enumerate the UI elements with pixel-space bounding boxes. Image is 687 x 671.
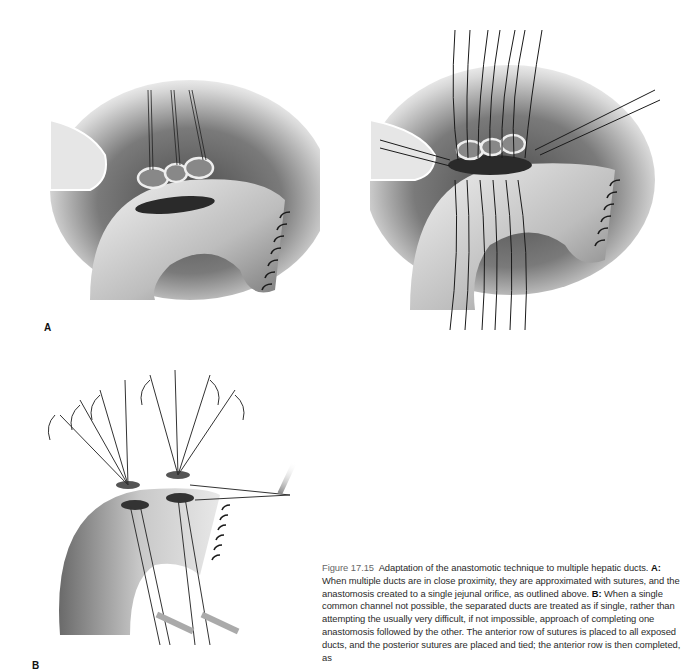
panel-label-b: B — [32, 660, 39, 671]
figure-panel-a-sutures — [370, 20, 660, 330]
figure-number: Figure 17.15 — [322, 562, 374, 573]
figure-panel-a — [50, 40, 320, 300]
caption-a-label: A: — [651, 562, 661, 573]
surgical-illustration-a-sutures — [370, 20, 660, 330]
surgical-illustration-a — [50, 40, 320, 300]
surgical-illustration-b — [30, 345, 320, 668]
figure-panel-b — [30, 345, 320, 668]
panel-label-a: A — [44, 322, 51, 333]
caption-title: Adaptation of the anastomotic technique … — [379, 562, 649, 573]
caption-b-label: B: — [592, 588, 602, 599]
figure-caption: Figure 17.15 Adaptation of the anastomot… — [322, 562, 686, 664]
